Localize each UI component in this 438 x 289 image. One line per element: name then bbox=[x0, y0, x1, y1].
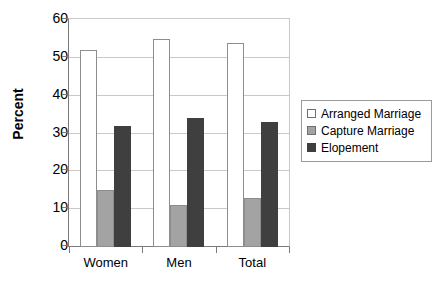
bar-set bbox=[216, 19, 289, 247]
bar-group bbox=[142, 19, 215, 247]
legend-label: Elopement bbox=[321, 142, 378, 154]
category-separator bbox=[216, 247, 217, 253]
legend-label: Capture Marriage bbox=[321, 125, 414, 137]
category-separator bbox=[142, 247, 143, 253]
y-axis-ticks: 0102030405060 bbox=[28, 18, 68, 247]
legend-label: Arranged Marriage bbox=[321, 108, 421, 120]
bar-capture bbox=[244, 198, 261, 247]
category-separators bbox=[69, 247, 289, 253]
bar-group bbox=[216, 19, 289, 247]
bar-set bbox=[69, 19, 142, 247]
legend-swatch-icon bbox=[307, 126, 316, 135]
bar-group bbox=[69, 19, 142, 247]
legend-item[interactable]: Capture Marriage bbox=[307, 122, 426, 139]
bar-capture bbox=[170, 205, 187, 247]
bar-elopement bbox=[261, 122, 278, 247]
y-axis-title: Percent bbox=[10, 74, 26, 154]
category-separator bbox=[69, 247, 70, 253]
category-separator bbox=[289, 247, 290, 253]
bar-arranged bbox=[153, 39, 170, 247]
bar-arranged bbox=[227, 43, 244, 247]
legend-item[interactable]: Arranged Marriage bbox=[307, 105, 426, 122]
legend: Arranged MarriageCapture MarriageElopeme… bbox=[301, 100, 432, 162]
legend-swatch-icon bbox=[307, 143, 316, 152]
bar-elopement bbox=[187, 118, 204, 247]
bar-chart: Percent 0102030405060 WomenMenTotal Arra… bbox=[0, 0, 438, 289]
bar-set bbox=[142, 19, 215, 247]
legend-item[interactable]: Elopement bbox=[307, 139, 426, 156]
bar-groups bbox=[69, 19, 289, 247]
bar-elopement bbox=[114, 126, 131, 247]
legend-swatch-icon bbox=[307, 109, 316, 118]
bar-arranged bbox=[80, 50, 97, 247]
x-tick-label: Total bbox=[216, 255, 289, 270]
x-tick-label: Men bbox=[142, 255, 215, 270]
x-tick-label: Women bbox=[69, 255, 142, 270]
bar-capture bbox=[97, 190, 114, 247]
x-axis-labels: WomenMenTotal bbox=[69, 255, 289, 270]
